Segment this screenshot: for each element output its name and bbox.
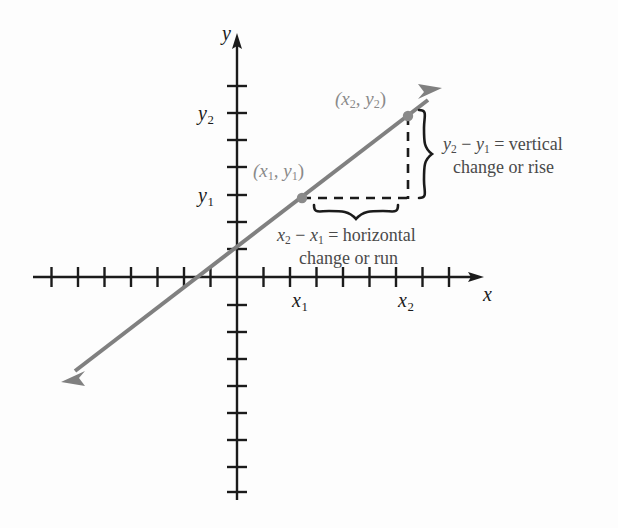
horizontal-annot-op: − xyxy=(291,225,310,245)
point-marker-1 xyxy=(297,193,307,203)
point-2-label-open: (x xyxy=(335,88,350,109)
point-2-label-close: ) xyxy=(380,88,386,109)
point-marker-2 xyxy=(403,111,413,121)
horizontal-annot-text2: change or run xyxy=(277,248,416,269)
slope-line-arrowhead-upper-right xyxy=(418,84,442,99)
horizontal-annot-text1: horizontal xyxy=(343,225,416,245)
slope-diagram-figure: x y x1 x2 y1 y2 (x1, y1) (x2, y2) y2 − y… xyxy=(0,0,618,528)
x2-tick-label-sub: 2 xyxy=(407,300,414,314)
horizontal-annot-var1: x xyxy=(277,225,285,245)
point-1-label-open: (x xyxy=(253,160,268,181)
point-2-label-mid: , y xyxy=(356,88,374,109)
point-1-label-mid: , y xyxy=(274,160,292,181)
x1-tick-label: x1 xyxy=(292,289,308,315)
horizontal-run-brace xyxy=(314,205,398,219)
horizontal-annot-eq: = xyxy=(324,225,343,245)
slope-line-arrowhead-lower-left xyxy=(61,371,85,386)
vertical-annot-op: − xyxy=(457,134,476,154)
vertical-annot-var2: y xyxy=(476,134,484,154)
x1-tick-label-var: x xyxy=(292,289,301,311)
y1-tick-label-sub: 1 xyxy=(207,195,214,209)
axes-group xyxy=(33,33,484,500)
y1-tick-label: y1 xyxy=(198,184,214,210)
x-axis-label: x xyxy=(483,283,492,307)
vertical-annot-text1: vertical xyxy=(509,134,563,154)
y2-tick-label-var: y xyxy=(198,102,207,124)
horizontal-annot-var2: x xyxy=(310,225,318,245)
point-1-coordinate-label: (x1, y1) xyxy=(253,160,304,184)
x2-tick-label-var: x xyxy=(398,289,407,311)
point-1-label-close: ) xyxy=(298,160,304,181)
y2-tick-label: y2 xyxy=(198,102,214,128)
x1-tick-label-sub: 1 xyxy=(301,300,308,314)
vertical-annot-text2: change or rise xyxy=(443,157,563,178)
y1-tick-label-var: y xyxy=(198,184,207,206)
horizontal-change-annotation: x2 − x1 = horizontal change or run xyxy=(277,225,416,269)
vertical-rise-brace xyxy=(419,110,432,198)
vertical-annot-eq: = xyxy=(490,134,509,154)
point-2-coordinate-label: (x2, y2) xyxy=(335,88,386,112)
x2-tick-label: x2 xyxy=(398,289,414,315)
y-axis-label: y xyxy=(222,22,231,46)
vertical-annot-var1: y xyxy=(443,134,451,154)
y2-tick-label-sub: 2 xyxy=(207,113,214,127)
vertical-change-annotation: y2 − y1 = vertical change or rise xyxy=(443,134,563,178)
